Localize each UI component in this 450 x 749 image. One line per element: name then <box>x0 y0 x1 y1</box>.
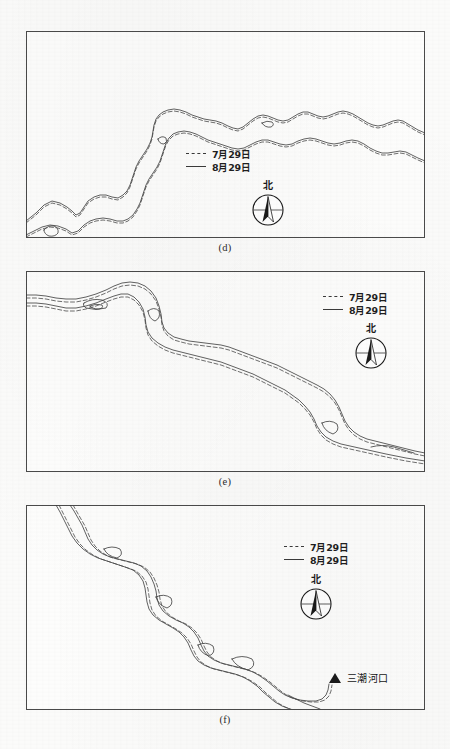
legend-label-july: 7月29日 <box>310 540 349 554</box>
compass-rose-icon <box>299 587 333 621</box>
compass-north-label: 北 <box>248 181 288 191</box>
panel-e-caption: (e) <box>0 476 450 487</box>
legend-row-dashed: 7月29日 <box>186 147 251 160</box>
compass-rose-icon <box>354 336 388 370</box>
legend-swatch-solid-icon <box>323 309 343 310</box>
legend-row-solid: 8月29日 <box>284 553 349 566</box>
legend-swatch-solid-icon <box>284 559 304 560</box>
site-marker-label: 三潮河口 <box>347 670 388 685</box>
panel-f-site-marker: 三潮河口 <box>329 670 388 685</box>
legend-row-solid: 8月29日 <box>323 303 388 316</box>
legend-row-solid: 8月29日 <box>186 160 251 173</box>
legend-label-july: 7月29日 <box>212 147 251 161</box>
panel-d-legend: 7月29日 8月29日 <box>186 147 251 173</box>
legend-label-august: 8月29日 <box>349 303 388 317</box>
panel-e-compass: 北 <box>351 324 391 370</box>
map-panel-f: 7月29日 8月29日 北 三潮河口 <box>26 505 425 710</box>
panel-d-compass: 北 <box>248 181 288 227</box>
compass-rose-icon <box>251 193 285 227</box>
panel-f-caption: (f) <box>0 714 450 725</box>
legend-swatch-dashed-icon <box>284 546 304 547</box>
legend-swatch-solid-icon <box>186 166 206 167</box>
legend-swatch-dashed-icon <box>323 296 343 297</box>
legend-label-july: 7月29日 <box>349 290 388 304</box>
panel-f-compass: 北 <box>296 575 336 621</box>
legend-label-august: 8月29日 <box>212 160 251 174</box>
panel-d-river-channel <box>26 31 425 238</box>
triangle-marker-icon <box>329 673 341 683</box>
panel-e-legend: 7月29日 8月29日 <box>323 290 388 316</box>
compass-north-label: 北 <box>296 575 336 585</box>
legend-label-august: 8月29日 <box>310 553 349 567</box>
panel-f-legend: 7月29日 8月29日 <box>284 540 349 566</box>
legend-swatch-dashed-icon <box>186 153 206 154</box>
figure-sheet: 7月29日 8月29日 北 (d) <box>0 0 450 749</box>
legend-row-dashed: 7月29日 <box>323 290 388 303</box>
legend-row-dashed: 7月29日 <box>284 540 349 553</box>
panel-d-caption: (d) <box>0 242 450 253</box>
compass-north-label: 北 <box>351 324 391 334</box>
map-panel-d: 7月29日 8月29日 北 <box>26 31 425 238</box>
map-panel-e: 7月29日 8月29日 北 <box>26 271 425 472</box>
